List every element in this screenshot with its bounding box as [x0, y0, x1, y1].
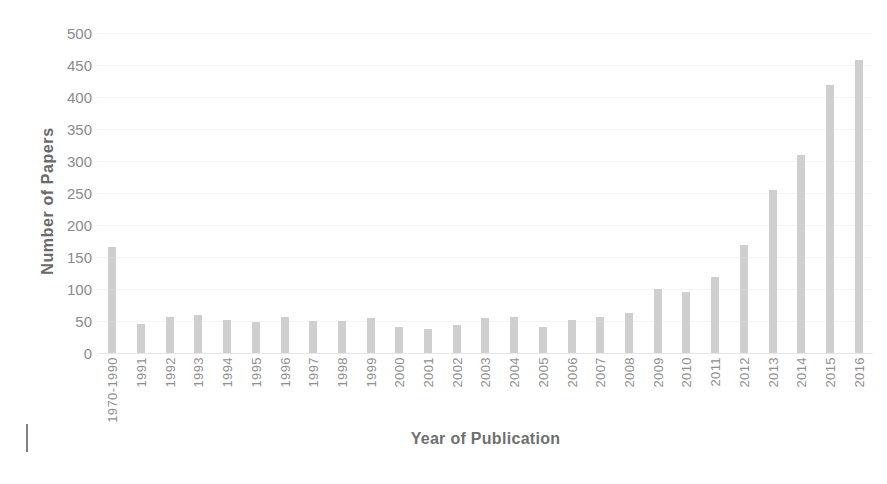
x-label-slot: 1996: [270, 357, 299, 419]
bar-slot: [385, 33, 414, 353]
bar: [424, 329, 432, 353]
x-tick-label: 2005: [535, 357, 550, 388]
x-label-slot: 2004: [500, 357, 529, 419]
bar-slot: [356, 33, 385, 353]
y-tick-label: 400: [48, 89, 92, 106]
y-tick-label: 100: [48, 281, 92, 298]
x-tick-label: 1994: [220, 357, 235, 388]
x-label-slot: 1991: [127, 357, 156, 419]
bar: [568, 320, 576, 353]
bar: [625, 313, 633, 353]
y-tick-label: 450: [48, 57, 92, 74]
bar-slot: [729, 33, 758, 353]
x-tick-label: 2014: [794, 357, 809, 388]
bar-slot: [299, 33, 328, 353]
y-tick-label: 350: [48, 121, 92, 138]
bar: [539, 327, 547, 353]
bar-slot: [184, 33, 213, 353]
bar-slot: [213, 33, 242, 353]
x-tick-label: 1992: [162, 357, 177, 388]
bar-slot: [672, 33, 701, 353]
x-tick-label: 2008: [622, 357, 637, 388]
bar-slot: [586, 33, 615, 353]
bar-slot: [471, 33, 500, 353]
bar: [338, 321, 346, 353]
bar: [453, 325, 461, 353]
x-tick-label: 1970-1990: [105, 357, 120, 423]
bar: [682, 292, 690, 353]
x-tick-label: 2000: [392, 357, 407, 388]
bar: [309, 321, 317, 353]
x-tick-label: 1995: [248, 357, 263, 388]
x-label-slot: 1992: [155, 357, 184, 419]
bar-slot: [270, 33, 299, 353]
bar: [855, 60, 863, 353]
x-label-slot: 1999: [356, 357, 385, 419]
x-label-slot: 2013: [758, 357, 787, 419]
bar: [252, 322, 260, 353]
y-axis-tick-labels: 500450400350300250200150100500: [44, 33, 92, 353]
bar-slot: [557, 33, 586, 353]
x-label-slot: 2016: [844, 357, 873, 419]
bar-slot: [816, 33, 845, 353]
x-tick-label: 1999: [363, 357, 378, 388]
x-tick-label: 1997: [306, 357, 321, 388]
bar-slot: [615, 33, 644, 353]
bar-slot: [442, 33, 471, 353]
x-label-slot: 2009: [643, 357, 672, 419]
y-tick-label: 300: [48, 153, 92, 170]
x-label-slot: 2011: [701, 357, 730, 419]
x-label-slot: 2006: [557, 357, 586, 419]
bar-slot: [98, 33, 127, 353]
x-tick-label: 2004: [507, 357, 522, 388]
x-label-slot: 2001: [414, 357, 443, 419]
bar: [367, 318, 375, 353]
bar-slot: [643, 33, 672, 353]
bar: [395, 327, 403, 353]
y-tick-label: 50: [48, 313, 92, 330]
x-label-slot: 2002: [442, 357, 471, 419]
bar-slot: [529, 33, 558, 353]
x-label-slot: 2015: [816, 357, 845, 419]
x-tick-label: 2002: [449, 357, 464, 388]
x-tick-label: 1998: [334, 357, 349, 388]
bar-slot: [242, 33, 271, 353]
x-label-slot: 2008: [615, 357, 644, 419]
x-label-slot: 1997: [299, 357, 328, 419]
x-label-slot: 1970-1990: [98, 357, 127, 419]
bar-slot: [500, 33, 529, 353]
bar-slot: [758, 33, 787, 353]
y-tick-label: 250: [48, 185, 92, 202]
bar: [596, 317, 604, 353]
x-tick-label: 2012: [736, 357, 751, 388]
x-tick-label: 2010: [679, 357, 694, 388]
x-label-slot: 2014: [787, 357, 816, 419]
x-tick-label: 2006: [564, 357, 579, 388]
bar: [166, 317, 174, 353]
x-label-slot: 2010: [672, 357, 701, 419]
x-label-slot: 2012: [729, 357, 758, 419]
x-tick-label: 1991: [134, 357, 149, 388]
x-tick-label: 2015: [822, 357, 837, 388]
y-tick-label: 0: [48, 345, 92, 362]
y-tick-label: 500: [48, 25, 92, 42]
bar: [481, 318, 489, 353]
x-label-slot: 2000: [385, 357, 414, 419]
bar: [223, 320, 231, 353]
x-axis-tick-labels: 1970-19901991199219931994199519961997199…: [98, 357, 873, 419]
x-label-slot: 2007: [586, 357, 615, 419]
bar-slot: [844, 33, 873, 353]
bar: [108, 247, 116, 353]
bar: [797, 155, 805, 353]
x-label-slot: 2003: [471, 357, 500, 419]
x-tick-label: 2001: [421, 357, 436, 388]
x-axis-line: [98, 353, 873, 354]
x-tick-label: 2016: [851, 357, 866, 388]
x-tick-label: 2013: [765, 357, 780, 388]
x-label-slot: 2005: [529, 357, 558, 419]
x-tick-label: 2011: [708, 357, 723, 387]
x-label-slot: 1994: [213, 357, 242, 419]
bar: [510, 317, 518, 353]
bar: [137, 324, 145, 353]
y-tick-label: 200: [48, 217, 92, 234]
